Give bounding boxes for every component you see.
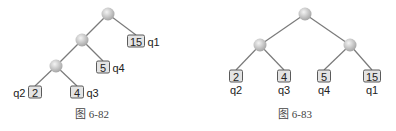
internal-node xyxy=(254,39,267,52)
leaf-weight: 15 xyxy=(366,71,378,83)
leaf-node: 5q4 xyxy=(97,61,125,74)
leaf-weight: 4 xyxy=(74,87,80,99)
leaf-node: 15q1 xyxy=(128,35,160,48)
figure-caption: 图 6-82 xyxy=(75,108,109,120)
internal-node xyxy=(344,39,357,52)
leaf-label: q3 xyxy=(278,84,290,96)
leaf-node: 15q1 xyxy=(364,70,381,96)
leaf-weight: 4 xyxy=(281,71,287,83)
huffman-tree-figures: 15q15q42q24q32q24q35q415q1 图 6-82图 6-83 xyxy=(0,0,396,131)
leaf-node: 4q3 xyxy=(278,70,291,96)
leaf-node: 2q2 xyxy=(230,70,243,96)
tree-edge xyxy=(260,14,305,45)
internal-node xyxy=(50,60,63,73)
leaf-label: q2 xyxy=(13,87,25,99)
leaf-label: q4 xyxy=(113,62,125,74)
leaf-label: q1 xyxy=(366,84,378,96)
leaf-node: 5q4 xyxy=(318,70,331,96)
internal-node xyxy=(299,8,312,21)
leaf-label: q2 xyxy=(230,84,242,96)
leaf-label: q3 xyxy=(87,87,99,99)
leaf-weight: 2 xyxy=(233,71,239,83)
internal-node xyxy=(102,8,115,21)
leaf-weight: 15 xyxy=(130,36,142,48)
leaf-node: 4q3 xyxy=(71,86,99,99)
leaf-weight: 5 xyxy=(100,62,106,74)
leaf-label: q1 xyxy=(148,36,160,48)
internal-node xyxy=(76,34,89,47)
leaf-weight: 5 xyxy=(321,71,327,83)
figure-caption: 图 6-83 xyxy=(278,108,312,120)
leaf-label: q4 xyxy=(318,84,330,96)
leaf-weight: 2 xyxy=(32,87,38,99)
tree-edge xyxy=(305,14,350,45)
leaf-node: 2q2 xyxy=(13,86,41,99)
